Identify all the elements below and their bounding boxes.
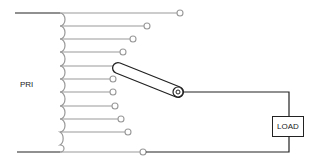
primary-label: PRI xyxy=(20,80,33,89)
circuit-drawing xyxy=(0,0,321,164)
load-box: LOAD xyxy=(272,116,304,137)
selector-wiper xyxy=(113,63,184,98)
load-label: LOAD xyxy=(277,122,299,131)
load-wiring xyxy=(146,92,289,152)
transformer-diagram: PRI LOAD xyxy=(0,0,321,164)
coil-winding xyxy=(60,13,65,152)
